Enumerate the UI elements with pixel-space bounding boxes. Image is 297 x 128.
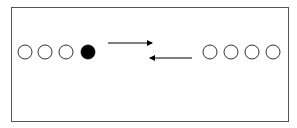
right-circle-4-empty — [266, 45, 280, 59]
arrow-group — [108, 43, 192, 58]
right-circle-2-empty — [224, 45, 238, 59]
left-circle-3-empty — [59, 45, 73, 59]
right-circle-group — [203, 45, 280, 59]
diagram-canvas — [0, 0, 297, 128]
left-circle-group — [18, 45, 95, 59]
right-circle-3-empty — [245, 45, 259, 59]
left-circle-4-filled — [81, 45, 95, 59]
left-circle-1-empty — [18, 45, 32, 59]
left-circle-2-empty — [38, 45, 52, 59]
diagram-frame — [12, 8, 289, 122]
right-circle-1-empty — [203, 45, 217, 59]
